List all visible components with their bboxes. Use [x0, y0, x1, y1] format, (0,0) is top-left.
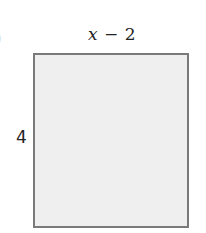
width-operator: − — [104, 24, 119, 44]
height-label: 4 — [16, 127, 27, 147]
width-label: x − 2 — [88, 24, 136, 44]
rectangle-shape — [33, 53, 189, 228]
top-cropped-text-fragments — [0, 0, 206, 2]
width-constant: 2 — [125, 24, 136, 44]
part-label: ) — [0, 30, 1, 46]
width-variable: x — [88, 24, 98, 44]
